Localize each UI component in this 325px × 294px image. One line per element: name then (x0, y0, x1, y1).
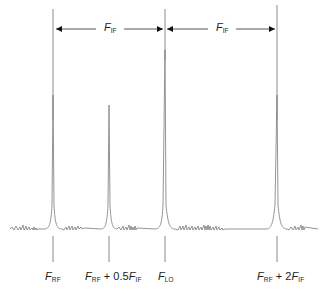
label-fif-1: FIF (98, 21, 123, 34)
label-frf-plus-half-fif: FRF + 0.5FIF (85, 270, 142, 283)
frequency-spectrum-diagram (0, 0, 325, 294)
label-flo: FLO (158, 270, 174, 283)
label-fif-2: FIF (210, 21, 235, 34)
spectrum-trace (10, 50, 318, 230)
label-frf-plus-2fif: FRF + 2FIF (257, 270, 304, 283)
label-frf: FRF (45, 270, 61, 283)
